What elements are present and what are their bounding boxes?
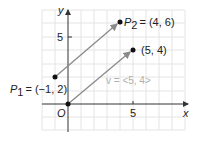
- point-p2: [118, 20, 123, 25]
- point-v-end: [131, 48, 136, 53]
- v-end-label: (5, 4): [141, 44, 167, 56]
- x-axis-label: x: [182, 107, 189, 119]
- p2-label: P2= (4, 6): [124, 16, 175, 31]
- point-p1: [53, 75, 58, 80]
- p1-label: P1= (−1, 2): [10, 83, 67, 98]
- origin-label: O: [57, 107, 66, 119]
- x-tick-label: 5: [130, 107, 136, 119]
- coordinate-plane: x y O 5 5 P2= (4, 6) (5, 4) P1= (−1, 2) …: [0, 0, 198, 142]
- point-origin: [66, 102, 71, 107]
- y-tick-label: 5: [57, 31, 63, 43]
- vector-label: v = <5, 4>: [106, 75, 151, 86]
